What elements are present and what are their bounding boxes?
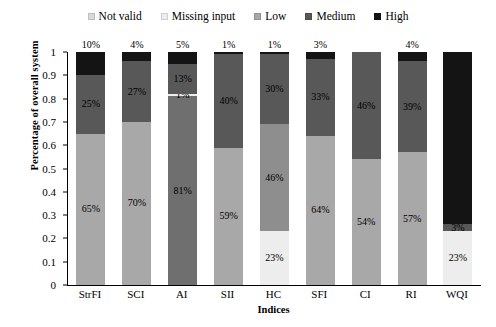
bar-top-label: 5% (176, 39, 189, 50)
bar-top-label: 1% (222, 39, 235, 50)
legend-label: High (385, 11, 408, 23)
stacked-bar[interactable]: 57%39% (398, 52, 427, 285)
segment-value-label: 74% (449, 133, 467, 143)
stacked-bar[interactable]: 23%3%74% (443, 52, 472, 285)
bar-segment[interactable] (76, 52, 105, 75)
bar-slot: 64%33%3% (300, 52, 341, 285)
segment-value-label: 46% (357, 101, 375, 111)
legend-label: Missing input (172, 11, 236, 23)
stacked-bar[interactable]: 23%46%30% (260, 52, 289, 285)
x-tick-label: CI (345, 288, 386, 300)
legend-item: Low (254, 11, 286, 23)
stacked-bar[interactable]: 59%40% (214, 52, 243, 285)
y-tick-label: 0.7 (42, 116, 56, 128)
legend-swatch-icon (161, 13, 168, 20)
segment-value-label: 70% (128, 198, 146, 208)
segment-value-label: 25% (82, 99, 100, 109)
stacked-bar[interactable]: 54%46% (352, 52, 381, 285)
bar-segment[interactable]: 23% (443, 231, 472, 285)
bar-segment[interactable]: 46% (260, 124, 289, 231)
plot-area: 65%25%10%70%27%4%81%1%13%5%59%40%1%23%46… (67, 52, 481, 286)
bar-top-label: 10% (82, 39, 100, 50)
bar-top-label: 3% (314, 39, 327, 50)
bar-segment[interactable]: 3% (443, 224, 472, 231)
legend-swatch-icon (88, 13, 95, 20)
bar-segment[interactable]: 59% (214, 148, 243, 285)
bar-slot: 59%40%1% (208, 52, 249, 285)
y-tick-label: 0.4 (42, 186, 56, 198)
segment-value-label: 64% (311, 205, 329, 215)
bar-segment[interactable]: 33% (306, 59, 335, 136)
bar-segment[interactable]: 27% (122, 61, 151, 122)
bar-slot: 23%3%74% (437, 52, 478, 285)
legend-item: Not valid (88, 11, 142, 23)
legend-item: Medium (305, 11, 355, 23)
bar-segment[interactable] (398, 52, 427, 61)
bar-segment[interactable]: 74% (443, 52, 472, 224)
y-tick-label: 0.2 (42, 232, 56, 244)
chart-legend: Not validMissing inputLowMediumHigh (0, 11, 496, 23)
x-tick-label: SCI (115, 288, 156, 300)
legend-label: Low (265, 11, 286, 23)
bar-segment[interactable]: 64% (306, 136, 335, 285)
segment-value-label: 23% (265, 253, 283, 263)
segment-value-label: 27% (128, 87, 146, 97)
y-tick-label: 1 (51, 46, 57, 58)
x-tick-label: StrFI (69, 288, 110, 300)
bar-segment[interactable]: 23% (260, 231, 289, 285)
bar-segment[interactable]: 81% (168, 96, 197, 285)
bar-segment[interactable]: 70% (122, 122, 151, 285)
bar-group: 65%25%10%70%27%4%81%1%13%5%59%40%1%23%46… (68, 52, 481, 285)
segment-value-label: 39% (403, 102, 421, 112)
legend-swatch-icon (254, 13, 261, 20)
bar-segment[interactable]: 1% (168, 94, 197, 96)
bar-segment[interactable]: 30% (260, 54, 289, 124)
x-tick-label: AI (161, 288, 202, 300)
segment-value-label: 54% (357, 217, 375, 227)
stacked-bar[interactable]: 70%27% (122, 52, 151, 285)
bar-slot: 57%39%4% (392, 52, 433, 285)
bar-slot: 54%46% (346, 52, 387, 285)
bar-segment[interactable]: 54% (352, 159, 381, 285)
segment-value-label: 46% (265, 173, 283, 183)
bar-segment[interactable]: 40% (214, 54, 243, 147)
legend-swatch-icon (374, 13, 381, 20)
bar-segment[interactable]: 46% (352, 52, 381, 159)
bar-slot: 70%27%4% (116, 52, 157, 285)
segment-value-label: 13% (174, 74, 192, 84)
stacked-bar[interactable]: 81%1%13% (168, 52, 197, 285)
segment-value-label: 59% (219, 211, 237, 221)
bar-top-label: 1% (268, 39, 281, 50)
segment-value-label: 65% (82, 204, 100, 214)
bar-segment[interactable]: 13% (168, 64, 197, 94)
bar-segment[interactable]: 39% (398, 61, 427, 152)
x-tick-label: HC (253, 288, 294, 300)
y-tick-label: 0.3 (42, 209, 56, 221)
bar-slot: 81%1%13%5% (162, 52, 203, 285)
x-axis-tick-labels: StrFISCIAISIIHCSFICIRIWQI (67, 288, 480, 300)
x-axis-title: Indices (67, 304, 480, 315)
y-tick-label: 0 (51, 279, 57, 291)
bar-slot: 65%25%10% (70, 52, 111, 285)
legend-item: Missing input (161, 11, 236, 23)
bar-segment[interactable] (214, 52, 243, 54)
bar-segment[interactable]: 65% (76, 134, 105, 285)
y-tick-label: 0.5 (42, 163, 56, 175)
x-tick-label: SFI (299, 288, 340, 300)
y-axis-tick-labels: 00.10.20.30.40.50.60.70.80.91 (0, 52, 63, 285)
segment-value-label: 57% (403, 214, 421, 224)
bar-top-label: 4% (405, 39, 418, 50)
bar-segment[interactable] (306, 52, 335, 59)
bar-segment[interactable] (122, 52, 151, 61)
bar-segment[interactable]: 57% (398, 152, 427, 285)
x-tick-label: SII (207, 288, 248, 300)
y-tick-label: 0.1 (42, 256, 56, 268)
legend-swatch-icon (305, 13, 312, 20)
y-tick-label: 0.9 (42, 69, 56, 81)
stacked-bar[interactable]: 65%25% (76, 52, 105, 285)
legend-label: Medium (316, 11, 355, 23)
bar-segment[interactable]: 25% (76, 75, 105, 133)
bar-segment[interactable] (168, 52, 197, 64)
bar-segment[interactable] (260, 52, 289, 54)
stacked-bar[interactable]: 64%33% (306, 52, 335, 285)
